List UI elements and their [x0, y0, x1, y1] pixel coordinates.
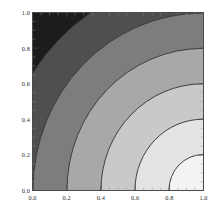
contour-plot-figure: 1.0 0.8 0.6 0.4 0.2 0.0 0.0 0.2 0.4 0.6 …: [0, 0, 218, 214]
x-tick-label: 0.0: [22, 194, 44, 201]
y-tick-label: 0.6: [4, 80, 30, 87]
y-tick-label: 1.0: [4, 9, 30, 16]
x-tick-label: 1.0: [193, 194, 215, 201]
x-tick-label: 0.4: [90, 194, 112, 201]
x-tick-label: 0.2: [56, 194, 78, 201]
y-tick-label: 0.4: [4, 116, 30, 123]
contour-svg: [33, 13, 203, 190]
x-tick-label: 0.8: [158, 194, 180, 201]
x-tick-label: 0.6: [124, 194, 146, 201]
y-tick-label: 0.8: [4, 45, 30, 52]
y-tick-label: 0.0: [4, 187, 30, 194]
contour-bands: [33, 13, 203, 190]
y-axis-tick-labels: 1.0 0.8 0.6 0.4 0.2 0.0: [0, 0, 30, 214]
plot-frame: [32, 12, 204, 191]
x-axis-tick-labels: 0.0 0.2 0.4 0.6 0.8 1.0: [0, 194, 218, 206]
y-tick-label: 0.2: [4, 151, 30, 158]
